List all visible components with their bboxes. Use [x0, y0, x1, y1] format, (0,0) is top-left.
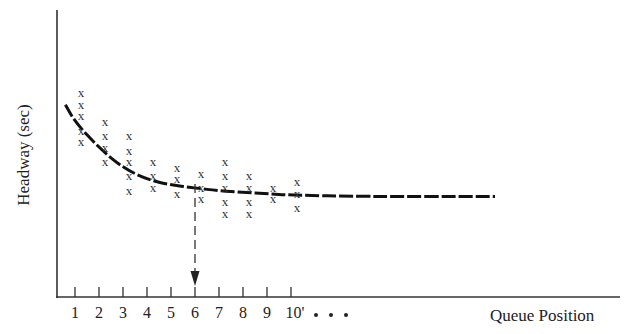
headway-observation-mark: x — [246, 180, 253, 195]
headway-observation-mark: x — [126, 154, 133, 169]
headway-observation-mark: x — [102, 154, 109, 169]
headway-observation-mark: x — [150, 180, 157, 195]
x-axis-tick-labels: 12345678910' — [71, 304, 305, 321]
headway-observation-mark: x — [150, 154, 157, 169]
continuation-dot — [314, 313, 318, 317]
headway-observation-mark: x — [174, 171, 181, 186]
headway-observation-mark: x — [294, 200, 301, 215]
headway-observation-mark: x — [102, 140, 109, 155]
x-tick-label: 5 — [167, 304, 175, 321]
headway-observation-mark: x — [174, 186, 181, 201]
headway-observation-mark: x — [222, 154, 229, 169]
scatter-marks: xxxxxxxxxxxxxxxxxxxxxxxxxxxxxxxxxxxxx — [78, 85, 301, 221]
headway-observation-mark: x — [246, 206, 253, 221]
chart-canvas: 12345678910' xxxxxxxxxxxxxxxxxxxxxxxxxxx… — [0, 0, 635, 334]
headway-observation-mark: x — [102, 114, 109, 129]
continuation-dots — [314, 313, 348, 317]
x-tick-label: 1 — [71, 304, 79, 321]
x-axis-label: Queue Position — [490, 306, 594, 326]
headway-observation-mark: x — [198, 191, 205, 206]
x-tick-label: 7 — [215, 304, 223, 321]
x-tick-label: 6 — [191, 304, 199, 321]
continuation-dot — [344, 313, 348, 317]
y-axis-label: Headway (sec) — [14, 104, 34, 205]
headway-observation-mark: x — [222, 180, 229, 195]
headway-observation-mark: x — [198, 166, 205, 181]
x-tick-label: 2 — [95, 304, 103, 321]
x-tick-label: 10' — [286, 304, 305, 321]
headway-observation-mark: x — [78, 108, 85, 123]
x-axis-ticks — [75, 287, 291, 297]
headway-observation-mark: x — [126, 128, 133, 143]
arrow-down-icon — [191, 271, 200, 286]
headway-observation-mark: x — [294, 186, 301, 201]
headway-observation-mark: x — [78, 134, 85, 149]
x-tick-label: 8 — [239, 304, 247, 321]
x-tick-label: 3 — [119, 304, 127, 321]
headway-observation-mark: x — [270, 191, 277, 206]
x-tick-label: 9 — [263, 304, 271, 321]
headway-observation-mark: x — [126, 168, 133, 183]
headway-observation-mark: x — [222, 206, 229, 221]
headway-observation-mark: x — [126, 183, 133, 198]
x-tick-label: 4 — [143, 304, 151, 321]
continuation-dot — [329, 313, 333, 317]
